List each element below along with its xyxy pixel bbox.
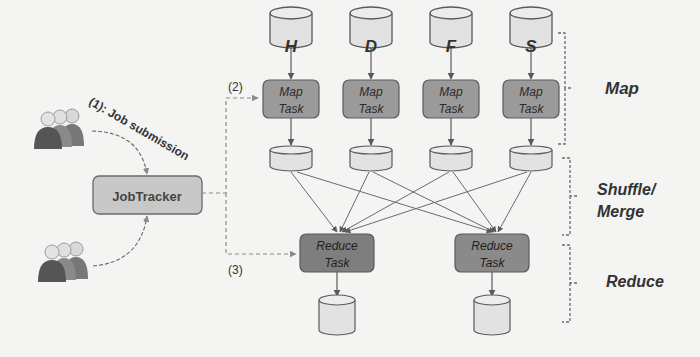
map-task-4: Map Task [503,80,559,118]
output-store-1 [319,295,355,335]
map-task-label: Map [439,85,463,99]
users-icon-top [34,109,84,149]
map-task-label: Task [279,102,305,116]
step-3-label: (3) [228,263,243,277]
intermediate-store-1 [270,146,312,171]
map-task-label: Map [519,85,543,99]
map-task-label: Map [359,85,383,99]
phase-braces [558,33,578,322]
phase-label-reduce: Reduce [606,273,664,290]
intermediate-store-4 [510,146,552,171]
map-task-label: Task [359,102,385,116]
phase-label-merge: Merge [597,203,644,220]
intermediate-store-2 [350,146,392,171]
mapreduce-diagram: H D F S Map Task Map Task Map Task [0,0,700,357]
users-icon-bottom [38,242,88,282]
reduce-task-label: Task [325,256,351,270]
shuffle-brace [562,158,578,235]
reduce-task-label: Reduce [316,239,358,253]
map-task-2: Map Task [343,80,399,118]
phase-label-map: Map [605,79,639,98]
reduce-task-2: Reduce Task [455,234,529,272]
store-to-map-arrows [291,48,531,79]
intermediate-store-3 [430,146,472,171]
map-task-label: Map [279,85,303,99]
map-task-1: Map Task [263,80,319,118]
output-store-2 [474,295,510,335]
jobtracker-box: JobTracker [93,176,202,214]
intermediate-stores [270,146,552,171]
jobtracker-dispatch-lines [202,98,296,254]
step-2-label: (2) [228,80,243,94]
reduce-to-output-arrows [337,272,492,296]
shuffle-arrows [291,172,531,232]
map-brace [558,33,573,144]
reduce-brace [562,245,578,322]
reduce-task-label: Task [480,256,506,270]
reduce-task-label: Reduce [471,239,513,253]
map-task-3: Map Task [423,80,479,118]
reduce-task-1: Reduce Task [300,234,374,272]
map-task-label: Task [439,102,465,116]
map-task-label: Task [519,102,545,116]
map-to-intermediate-arrows [291,118,531,145]
phase-label-shuffle: Shuffle/ [597,181,657,198]
jobtracker-label: JobTracker [112,189,181,204]
